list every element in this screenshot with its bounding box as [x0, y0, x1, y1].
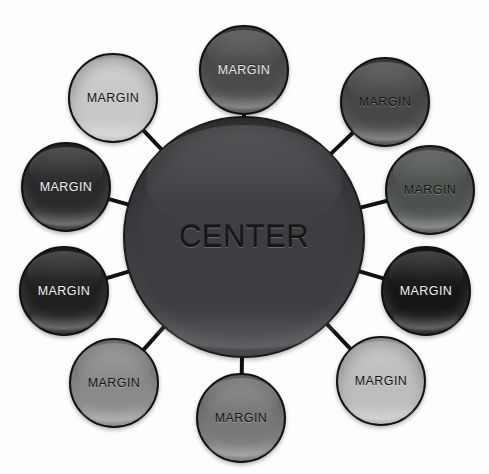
margin-node-top-left[interactable]: MARGIN: [68, 53, 158, 143]
margin-node-bottom[interactable]: MARGIN: [196, 373, 286, 463]
center-node-label: CENTER: [179, 219, 309, 255]
margin-node-label: MARGIN: [87, 91, 139, 105]
margin-node-label: MARGIN: [88, 376, 140, 390]
margin-node-label: MARGIN: [40, 180, 92, 194]
spoke-connector-bottom-left: [142, 325, 166, 352]
margin-node-label: MARGIN: [38, 284, 90, 298]
spoke-connector-right-lower: [357, 271, 386, 279]
margin-node-label: MARGIN: [355, 374, 407, 388]
spoke-connector-right-upper: [358, 200, 389, 208]
spoke-connector-top-left: [142, 129, 163, 152]
margin-node-left-lower[interactable]: MARGIN: [19, 246, 109, 336]
margin-node-top-right[interactable]: MARGIN: [340, 57, 430, 147]
margin-node-label: MARGIN: [359, 95, 411, 109]
margin-node-left-upper[interactable]: MARGIN: [21, 142, 111, 232]
margin-node-top[interactable]: MARGIN: [199, 25, 289, 115]
margin-node-label: MARGIN: [215, 411, 267, 425]
margin-node-label: MARGIN: [404, 183, 456, 197]
spoke-connector-top-right: [329, 131, 354, 155]
center-node[interactable]: CENTER: [123, 116, 365, 358]
spoke-connector-left-lower: [104, 271, 131, 279]
margin-node-bottom-left[interactable]: MARGIN: [69, 338, 159, 428]
radial-diagram-canvas: CENTER MARGINMARGINMARGINMARGINMARGINMAR…: [0, 0, 489, 474]
spoke-connector-bottom-right: [325, 322, 352, 350]
margin-node-bottom-right[interactable]: MARGIN: [336, 336, 426, 426]
margin-node-right-upper[interactable]: MARGIN: [385, 145, 475, 235]
margin-node-right-lower[interactable]: MARGIN: [381, 246, 471, 336]
margin-node-label: MARGIN: [218, 63, 270, 77]
margin-node-label: MARGIN: [400, 284, 452, 298]
